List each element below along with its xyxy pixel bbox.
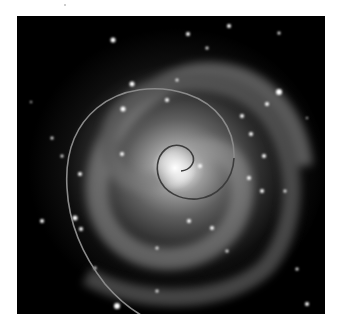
galaxy-image — [17, 16, 325, 314]
galaxy-photo — [17, 16, 325, 314]
stray-dot — [64, 4, 66, 6]
